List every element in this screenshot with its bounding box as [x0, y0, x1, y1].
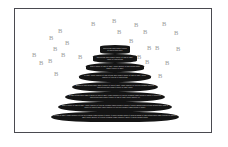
- pyramid-tier-label: sit and actions while nam ut dolore sit …: [65, 95, 165, 99]
- pyramid-stack: and actions while nam ut dolore sit and …: [15, 9, 211, 132]
- pyramid-tier-label: sit amet, conse adipisic sit and actions…: [79, 75, 151, 79]
- pyramid-tier-label: and actions while nam ut dolore sit and …: [93, 57, 137, 61]
- pyramid-tier: sit amet, conse adipisic sit and actions…: [79, 72, 151, 82]
- diagram-canvas: BBBBBBBBBBBBBBBBBBBBBBBBB and actions wh…: [15, 9, 211, 132]
- pyramid-tier-label: nam ut dolore sit and sit amet, conse ad…: [58, 105, 172, 109]
- pyramid-tier: adipisic sit and actions while nam ut do…: [72, 82, 158, 92]
- pyramid-tier-label: sit and sit amet, conse adipisic elit se…: [51, 115, 179, 119]
- pyramid-tier: sit and sit amet, conse adipisic elit se…: [51, 112, 179, 122]
- pyramid-tier-label: adipisic sit and actions while nam ut do…: [72, 85, 158, 89]
- pyramid-tier-label: nam ut dolore sit and sit amet, conse ad…: [86, 66, 144, 70]
- pyramid-tier: sit and actions while nam ut dolore sit …: [65, 92, 165, 102]
- pyramid-tier-label: and actions while nam ut dolore sit and …: [100, 48, 130, 52]
- pyramid-tier: and actions while nam ut dolore sit and …: [100, 45, 130, 54]
- pyramid-tier: nam ut dolore sit and sit amet, conse ad…: [86, 63, 144, 72]
- figure-frame: BBBBBBBBBBBBBBBBBBBBBBBBB and actions wh…: [14, 8, 212, 133]
- pyramid-tier: and actions while nam ut dolore sit and …: [93, 54, 137, 63]
- pyramid-tier: nam ut dolore sit and sit amet, conse ad…: [58, 102, 172, 112]
